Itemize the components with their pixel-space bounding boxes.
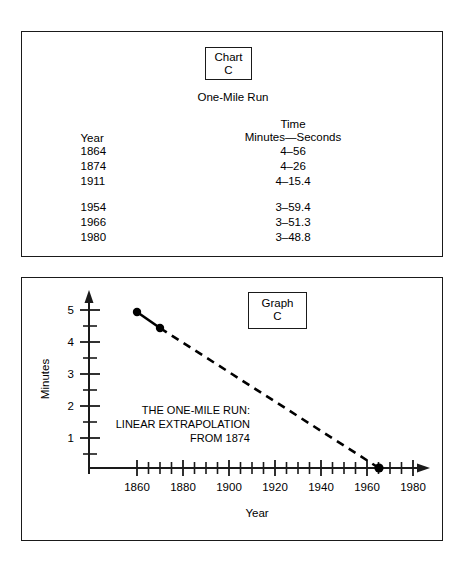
y-axis <box>85 290 94 474</box>
graph-panel: Graph C 1 <box>21 277 443 541</box>
x-tick-label: 1940 <box>308 481 334 493</box>
column-header-year: Year <box>81 118 201 144</box>
y-tick-label: 4 <box>68 336 75 348</box>
y-axis-tick-labels: 1 2 3 4 5 <box>68 304 75 444</box>
cell-time: 3–59.4 <box>201 200 386 215</box>
column-header-time: Time Minutes—Seconds <box>201 118 386 144</box>
table-header: Year Time Minutes—Seconds <box>81 118 386 144</box>
data-point-endpoint-marker <box>374 463 383 472</box>
table-row: 1966 3–51.3 <box>81 215 386 230</box>
y-tick-label: 5 <box>68 304 74 316</box>
cell-year: 1966 <box>81 215 201 230</box>
cell-time: 3–51.3 <box>201 215 386 230</box>
cell-year: 1864 <box>81 144 201 159</box>
y-axis-arrowhead <box>85 290 94 303</box>
y-tick-label: 1 <box>68 432 74 444</box>
cell-year: 1874 <box>81 159 201 174</box>
x-tick-label: 1980 <box>400 481 426 493</box>
x-axis-title: Year <box>245 507 268 519</box>
y-tick-label: 3 <box>68 368 74 380</box>
cell-time: 4–15.4 <box>201 174 386 189</box>
chart-tag-line2: C <box>206 64 251 77</box>
data-point-marker <box>133 308 141 316</box>
column-header-time-line1: Time <box>201 118 386 131</box>
table-row: 1864 4–56 <box>81 144 386 159</box>
table-group-spacer <box>81 189 386 200</box>
x-tick-label: 1900 <box>216 481 242 493</box>
spacer-cell <box>81 189 201 200</box>
annotation-line-3: FROM 1874 <box>190 432 250 444</box>
table-body: 1864 4–56 1874 4–26 1911 4–15.4 1954 <box>81 144 386 245</box>
table-row: 1954 3–59.4 <box>81 200 386 215</box>
cell-year: 1954 <box>81 200 201 215</box>
table-header-row: Year Time Minutes—Seconds <box>81 118 386 144</box>
x-tick-label: 1860 <box>124 481 150 493</box>
x-axis-arrowhead <box>417 464 430 473</box>
one-mile-run-line-chart: 1 2 3 4 5 Minutes <box>22 278 444 542</box>
series-observed-line <box>137 312 160 328</box>
x-axis-tick-labels: 1860 1880 1900 1920 1940 1960 1980 <box>124 481 426 493</box>
annotation-line-1: THE ONE-MILE RUN: <box>142 404 250 416</box>
data-table-wrapper: Year Time Minutes—Seconds 1864 4–56 1874… <box>22 118 444 245</box>
series-extrapolation-line <box>160 328 379 468</box>
chart-panel: Chart C One-Mile Run Year Time Minutes—S… <box>21 31 443 257</box>
table-row: 1874 4–26 <box>81 159 386 174</box>
x-tick-label: 1960 <box>354 481 380 493</box>
data-point-marker <box>156 324 164 332</box>
one-mile-run-table: Year Time Minutes—Seconds 1864 4–56 1874… <box>81 118 386 245</box>
chart-label-box: Chart C <box>205 47 252 80</box>
x-tick-label: 1920 <box>262 481 288 493</box>
cell-time: 4–26 <box>201 159 386 174</box>
y-axis-title: Minutes <box>39 359 51 400</box>
column-header-time-line2: Minutes—Seconds <box>201 131 386 144</box>
chart-subtitle: One-Mile Run <box>22 91 444 103</box>
table-row: 1980 3–48.8 <box>81 230 386 245</box>
cell-year: 1980 <box>81 230 201 245</box>
cell-time: 4–56 <box>201 144 386 159</box>
chart-annotation: THE ONE-MILE RUN: LINEAR EXTRAPOLATION F… <box>116 404 250 444</box>
x-tick-label: 1880 <box>170 481 196 493</box>
annotation-line-2: LINEAR EXTRAPOLATION <box>116 418 250 430</box>
chart-tag-line1: Chart <box>206 51 251 64</box>
cell-year: 1911 <box>81 174 201 189</box>
table-row: 1911 4–15.4 <box>81 174 386 189</box>
cell-time: 3–48.8 <box>201 230 386 245</box>
y-tick-label: 2 <box>68 400 74 412</box>
spacer-cell <box>201 189 386 200</box>
